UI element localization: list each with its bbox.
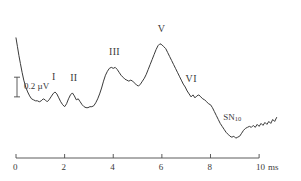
x-axis-unit-label: ms [268, 163, 279, 172]
peak-iii-label: III [109, 47, 120, 57]
peak-v-label: V [158, 24, 166, 34]
abr-waveform-figure: IIIIIIVVI 0246810 SN10 0.2 µV ms [0, 0, 301, 181]
sn10-subscript: 10 [235, 115, 242, 122]
x-tick-label-2: 2 [62, 163, 67, 172]
x-tick-label-8: 8 [207, 163, 212, 172]
scale-bar-label: 0.2 µV [24, 82, 49, 91]
x-tick-label-6: 6 [159, 163, 164, 172]
peak-vi-label: VI [186, 74, 197, 84]
sn10-label: SN10 [223, 113, 241, 122]
abr-trace-line [16, 38, 277, 138]
x-tick-label-0: 0 [13, 163, 18, 172]
peak-i-label: I [52, 72, 56, 82]
x-tick-label-4: 4 [110, 163, 115, 172]
x-axis-ticks [16, 154, 259, 158]
x-tick-label-10: 10 [256, 163, 265, 172]
peak-ii-label: II [70, 73, 77, 83]
